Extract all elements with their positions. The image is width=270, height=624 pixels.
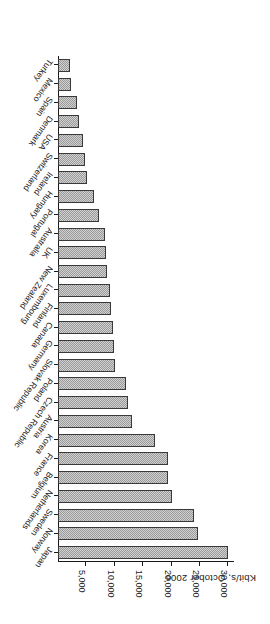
bar: [58, 228, 105, 241]
bar: [58, 246, 106, 259]
bar: [58, 359, 115, 372]
bar-chart-figure: Kbit/s, October 2006 5,00010,00015,00020…: [0, 0, 270, 624]
bar: [58, 209, 99, 222]
value-axis-tick: [171, 562, 172, 566]
bar-row: [58, 153, 234, 166]
bar-row: [58, 490, 234, 503]
bar: [58, 78, 71, 91]
bar: [58, 415, 132, 428]
bar-row: [58, 265, 234, 278]
bar: [58, 396, 128, 409]
bar-row: [58, 246, 234, 259]
bar-row: [58, 546, 234, 559]
bar-row: [58, 377, 234, 390]
bar-row: [58, 359, 234, 372]
bar: [58, 452, 168, 465]
bar: [58, 59, 70, 72]
bar-row: [58, 59, 234, 72]
bar-row: [58, 209, 234, 222]
value-axis-tick-label: 20,000: [163, 570, 173, 598]
value-axis-line: [58, 561, 234, 562]
bar: [58, 434, 155, 447]
bar-row: [58, 78, 234, 91]
bar-row: [58, 321, 234, 334]
bar-row: [58, 96, 234, 109]
bar: [58, 340, 114, 353]
bar-row: [58, 452, 234, 465]
bar: [58, 153, 85, 166]
bar: [58, 377, 126, 390]
value-axis-tick-label: 30,000: [219, 570, 229, 598]
bar: [58, 115, 79, 128]
bar-row: [58, 228, 234, 241]
bar-row: [58, 171, 234, 184]
bar: [58, 190, 94, 203]
bar-row: [58, 190, 234, 203]
bar-row: [58, 509, 234, 522]
value-axis-tick-label: 10,000: [106, 570, 116, 598]
bar-row: [58, 115, 234, 128]
bar: [58, 284, 110, 297]
bar-row: [58, 471, 234, 484]
chart-axis-title: Kbit/s, October 2006: [165, 573, 256, 584]
rotated-figure-wrapper: Kbit/s, October 2006 5,00010,00015,00020…: [0, 0, 270, 624]
value-axis-tick: [114, 562, 115, 566]
bar-row: [58, 396, 234, 409]
bar-row: [58, 302, 234, 315]
bar: [58, 171, 87, 184]
bar-row: [58, 415, 234, 428]
bar: [58, 527, 198, 540]
plot-area: 5,00010,00015,00020,00025,00030,000 Japa…: [58, 56, 234, 562]
bar: [58, 321, 113, 334]
bar: [58, 134, 83, 147]
value-axis-tick-label: 5,000: [77, 570, 87, 593]
bar-row: [58, 340, 234, 353]
bar: [58, 96, 77, 109]
bar: [58, 490, 172, 503]
value-axis-tick: [142, 562, 143, 566]
bar: [58, 471, 168, 484]
bar-row: [58, 284, 234, 297]
bar-row: [58, 527, 234, 540]
bar-row: [58, 134, 234, 147]
value-axis-tick: [85, 562, 86, 566]
bar: [58, 509, 194, 522]
value-axis-tick-label: 25,000: [191, 570, 201, 598]
value-axis-tick: [199, 562, 200, 566]
value-axis-tick-label: 15,000: [134, 570, 144, 598]
value-axis-tick: [227, 562, 228, 566]
bar: [58, 265, 107, 278]
bar: [58, 546, 228, 559]
bar-row: [58, 434, 234, 447]
bar: [58, 302, 111, 315]
